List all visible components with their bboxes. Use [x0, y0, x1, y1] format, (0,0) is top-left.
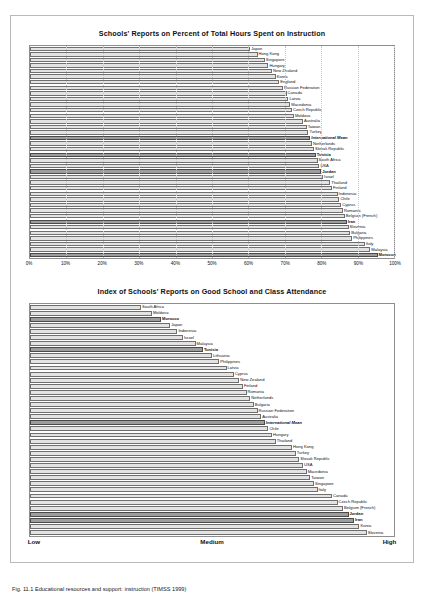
- bar: [30, 433, 272, 438]
- bar: [30, 208, 343, 212]
- bar: [30, 402, 254, 407]
- bar: [30, 481, 314, 486]
- bar-label: Tunisia: [203, 348, 218, 352]
- bar-label: Chile: [268, 427, 278, 431]
- bar: [30, 384, 243, 389]
- bar: [30, 335, 183, 340]
- chart-2-title: Index of Schools' Reports on Good School…: [25, 287, 399, 296]
- bar: [30, 102, 290, 106]
- bar: [30, 414, 261, 419]
- bar: [30, 108, 292, 112]
- axis-tick-label: 100%: [389, 261, 401, 266]
- bar: [30, 396, 250, 401]
- bar: [30, 347, 203, 352]
- bar: [30, 457, 299, 462]
- bar-label: Italy: [318, 488, 327, 492]
- bar: [30, 329, 177, 334]
- bar: [30, 97, 288, 101]
- bar: [30, 311, 152, 316]
- bar-label: USA: [303, 463, 312, 467]
- bar-label: Iran: [354, 518, 363, 522]
- axis-tick-label: 30%: [134, 261, 143, 266]
- chart-1-plot: JapanHong KongSingaporeHungaryNew Zealan…: [29, 45, 395, 259]
- axis-tick-label: 0%: [26, 261, 33, 266]
- bar-label: Lithuania: [212, 354, 230, 358]
- figure-page: Schools' Reports on Percent of Total Hou…: [10, 15, 414, 563]
- axis-tick-label: 80%: [317, 261, 326, 266]
- bar: [30, 359, 219, 364]
- bar-label: Thailand: [276, 439, 293, 443]
- bar: [30, 247, 370, 251]
- bar-label: Moldova: [152, 311, 168, 315]
- bar: [30, 524, 359, 529]
- chart-2-x-axis: LowMediumHigh: [29, 538, 395, 548]
- bar: [30, 512, 349, 517]
- bar-label: Israel: [183, 335, 194, 339]
- bar: [30, 125, 307, 129]
- bar: [30, 323, 170, 328]
- bar: [30, 341, 196, 346]
- bar: [30, 530, 367, 535]
- bar: [30, 253, 378, 257]
- bar-label: Belgium (French): [343, 506, 375, 510]
- bar: [30, 214, 345, 218]
- chart-1-x-axis: 0%10%20%30%40%50%60%70%80%90%100%: [29, 260, 395, 270]
- bar: [30, 506, 343, 511]
- bar: [30, 494, 332, 499]
- bar: [30, 86, 283, 90]
- bar-label: Latvia: [227, 366, 239, 370]
- bar-label: Macedonia: [307, 469, 328, 473]
- bar: [30, 408, 258, 413]
- bar: [30, 463, 303, 468]
- bar-row: Slovenia: [30, 529, 394, 535]
- bar-label: Malaysia: [196, 341, 213, 345]
- bar-label: New Zealand: [239, 378, 264, 382]
- axis-tick-label: High: [383, 538, 397, 545]
- gridline: [139, 46, 140, 258]
- bar: [30, 420, 265, 425]
- bar: [30, 58, 265, 62]
- gridline: [394, 46, 395, 258]
- gridline: [103, 46, 104, 258]
- bar: [30, 372, 234, 377]
- bar-label: Hungary: [272, 433, 288, 437]
- bar: [30, 192, 338, 196]
- bar-label: Slovak Republic: [299, 457, 329, 461]
- bar: [30, 445, 292, 450]
- chart-1-title: Schools' Reports on Percent of Total Hou…: [25, 29, 399, 38]
- gridline: [248, 46, 249, 258]
- bar-label: South Africa: [141, 305, 164, 309]
- bar: [30, 242, 365, 246]
- axis-tick-label: 50%: [207, 261, 216, 266]
- bar: [30, 231, 350, 235]
- gridline: [176, 46, 177, 258]
- bar: [30, 136, 310, 140]
- bar-label: Turkey: [296, 451, 309, 455]
- bar-label: Morocco: [161, 317, 179, 321]
- bar-label: Japan: [170, 323, 182, 327]
- gridline: [285, 46, 286, 258]
- bar-label: Canada: [332, 494, 347, 498]
- bar-label: Czech Republic: [338, 500, 368, 504]
- bar-label: International Mean: [265, 421, 302, 425]
- bar: [30, 518, 354, 523]
- bar-label: Russian Federation: [258, 408, 295, 412]
- bar: [30, 141, 312, 145]
- bar: [30, 439, 276, 444]
- bar-label: Philippines: [219, 360, 240, 364]
- bar: [30, 197, 339, 201]
- bar: [30, 451, 296, 456]
- gridline: [212, 46, 213, 258]
- bar-label: Romania: [247, 390, 264, 394]
- gridline: [358, 46, 359, 258]
- bar: [30, 80, 279, 84]
- bar: [30, 114, 294, 118]
- bar: [30, 390, 247, 395]
- bar: [30, 353, 212, 358]
- bar-label: Netherlands: [250, 396, 273, 400]
- bar: [30, 147, 314, 151]
- bar: [30, 487, 318, 492]
- bar-label: Slovenia: [367, 530, 384, 534]
- bar: [30, 378, 239, 383]
- bar: [30, 469, 307, 474]
